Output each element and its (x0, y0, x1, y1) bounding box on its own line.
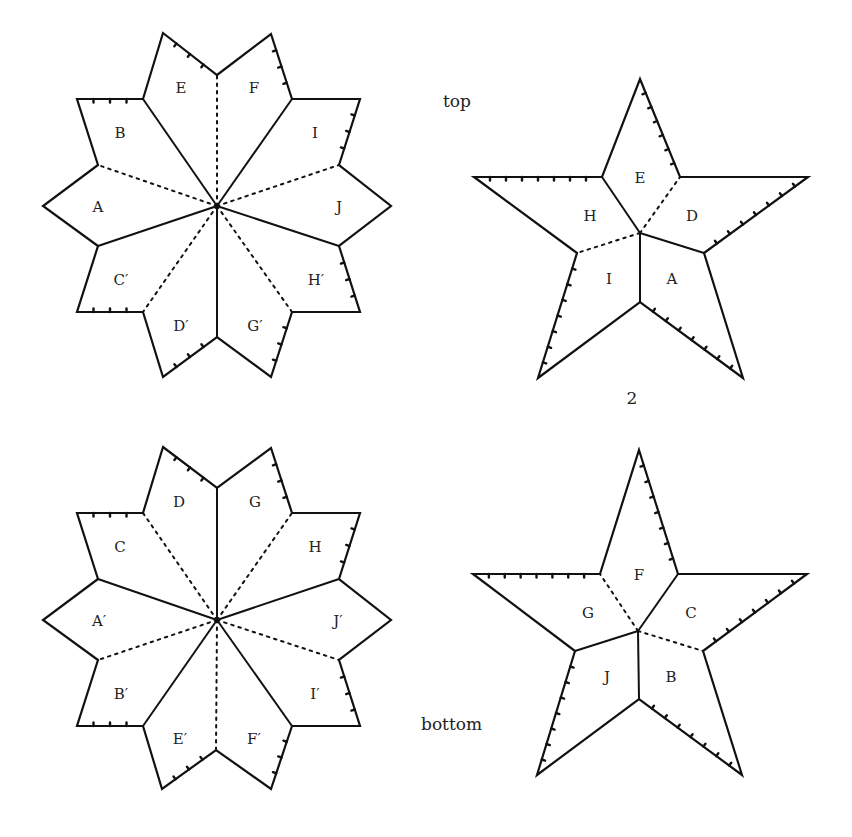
mountain-fold-line (143, 620, 217, 726)
valley-fold-line (217, 620, 339, 660)
mountain-fold-line (143, 99, 217, 206)
panel-label: H (308, 538, 321, 556)
valley-fold-line (98, 165, 217, 206)
glue-tab-marks (174, 344, 203, 367)
valley-fold-line (640, 177, 680, 233)
panel-label: J (602, 668, 610, 686)
glue-tab-marks (174, 457, 203, 480)
panel-label: G (249, 493, 261, 511)
panel-label: C′ (114, 271, 129, 289)
panel-label: G (582, 604, 594, 622)
panel-label: F (634, 566, 644, 584)
outline-edge (474, 79, 808, 378)
mountain-fold-line (217, 206, 339, 246)
top-star-assembled: EHDIA (474, 79, 808, 378)
panel-label: F′ (247, 730, 261, 748)
valley-fold-line (217, 513, 292, 620)
glue-tab-marks (173, 757, 202, 779)
bottom-star-assembled: FGCJB (473, 450, 807, 775)
panel-label: G′ (247, 317, 263, 335)
valley-fold-line (143, 206, 217, 312)
top-decagon-net: EFBIAJC′H′D′G′ (43, 33, 391, 377)
panel-label: E′ (173, 730, 188, 748)
mountain-fold-line (217, 620, 292, 726)
panel-label: H′ (308, 271, 325, 289)
caption-top: top (443, 91, 471, 111)
valley-fold-line (577, 233, 640, 253)
panel-label: D (686, 207, 698, 225)
valley-fold-line (143, 513, 217, 620)
panel-label: A (666, 270, 678, 288)
panel-label: C (685, 604, 696, 622)
outline-edge (473, 450, 807, 775)
glue-tab-marks (653, 309, 732, 369)
panel-label: J (334, 198, 342, 216)
mountain-fold-line (575, 631, 638, 651)
panel-label: D′ (173, 317, 189, 335)
panel-label: C (114, 538, 125, 556)
panel-label: E (635, 169, 646, 187)
panel-label: I′ (310, 685, 320, 703)
glue-tab-marks (714, 581, 794, 642)
panel-label: B (665, 668, 676, 686)
panel-label: A′ (91, 612, 107, 630)
valley-fold-line (217, 206, 292, 312)
valley-fold-line (217, 165, 339, 206)
panel-label: H (583, 207, 596, 225)
mountain-fold-line (217, 99, 292, 206)
glue-tab-marks (652, 706, 731, 766)
panel-label: B (114, 124, 125, 142)
panel-label: D (173, 493, 185, 511)
valley-fold-line (98, 620, 217, 660)
valley-fold-line (600, 574, 638, 631)
mountain-fold-line (638, 631, 639, 699)
panel-label: F (249, 79, 259, 97)
mountain-fold-line (640, 233, 704, 253)
mountain-fold-line (98, 206, 217, 246)
valley-fold-line (216, 620, 217, 750)
panel-label: I (312, 124, 318, 142)
star-folding-diagram: EFBIAJC′H′D′G′ DGCHA′J′B′I′E′F′ EHDIA FG… (0, 0, 852, 837)
valley-fold-line (638, 631, 703, 651)
panel-label: E (176, 79, 187, 97)
bottom-decagon-net: DGCHA′J′B′I′E′F′ (43, 447, 391, 789)
page-number: 2 (627, 388, 638, 408)
mountain-fold-line (217, 579, 339, 620)
mountain-fold-line (98, 579, 217, 620)
caption-bottom: bottom (421, 714, 482, 734)
panel-label: A (92, 198, 104, 216)
panel-label: J′ (331, 612, 343, 630)
panel-label: I (606, 270, 612, 288)
glue-tab-marks (174, 44, 203, 68)
panel-label: B′ (114, 685, 129, 703)
glue-tab-marks (715, 184, 795, 244)
